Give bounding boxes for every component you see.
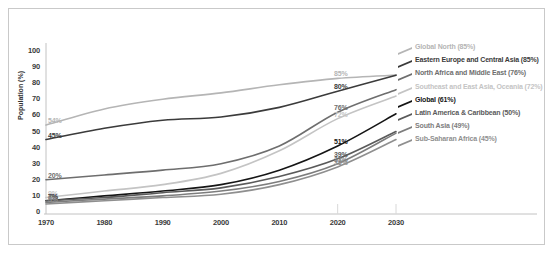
legend-label-7: Sub-Saharan Africa (45%) bbox=[415, 134, 497, 144]
legend-label-3: Southeast and East Asia, Oceania (72%) bbox=[415, 82, 542, 92]
x-axis-tick-2010: 2010 bbox=[259, 218, 299, 227]
legend-item-3: Southeast and East Asia, Oceania (72%) bbox=[398, 82, 542, 92]
legend-label-5: Latin America & Caribbean (50%) bbox=[415, 108, 520, 118]
y-axis-tick-20: 20 bbox=[16, 175, 40, 184]
y-axis-tick-40: 40 bbox=[16, 143, 40, 152]
end-label-4: 51% bbox=[334, 138, 347, 145]
start-label-1: 45% bbox=[48, 132, 61, 139]
legend-swatch-icon-1 bbox=[398, 55, 412, 65]
legend-label-0: Global North (85%) bbox=[415, 42, 475, 52]
end-label-3: 72% bbox=[334, 111, 347, 118]
end-label-7: 33% bbox=[334, 159, 347, 166]
legend-item-1: Eastern Europe and Central Asia (85%) bbox=[398, 55, 539, 65]
legend-swatch-icon-7 bbox=[398, 134, 412, 144]
y-axis-tick-80: 80 bbox=[16, 78, 40, 87]
x-axis-tick-1970: 1970 bbox=[26, 218, 66, 227]
x-axis-tick-1980: 1980 bbox=[84, 218, 124, 227]
legend-label-1: Eastern Europe and Central Asia (85%) bbox=[415, 55, 539, 65]
y-axis-tick-0: 0 bbox=[16, 207, 40, 216]
legend-swatch-icon-4 bbox=[398, 95, 412, 105]
legend-item-2: North Africa and Middle East (76%) bbox=[398, 68, 526, 78]
y-axis-tick-90: 90 bbox=[16, 62, 40, 71]
start-label-7: 5% bbox=[48, 196, 58, 203]
legend-swatch-icon-3 bbox=[398, 82, 412, 92]
legend-item-6: South Asia (49%) bbox=[398, 121, 470, 131]
x-axis-tick-2020: 2020 bbox=[318, 218, 358, 227]
y-axis-tick-60: 60 bbox=[16, 110, 40, 119]
legend-item-5: Latin America & Caribbean (50%) bbox=[398, 108, 520, 118]
end-label-1: 80% bbox=[334, 83, 347, 90]
legend-label-6: South Asia (49%) bbox=[415, 121, 470, 131]
y-axis-tick-10: 10 bbox=[16, 191, 40, 200]
x-axis-tick-1990: 1990 bbox=[143, 218, 183, 227]
x-axis-tick-2000: 2000 bbox=[201, 218, 241, 227]
y-axis-tick-30: 30 bbox=[16, 159, 40, 168]
y-axis-tick-70: 70 bbox=[16, 94, 40, 103]
x-axis-tick-2030: 2030 bbox=[376, 218, 416, 227]
legend-swatch-icon-6 bbox=[398, 121, 412, 131]
chart-figure: Population (%) 0102030405060708090100 19… bbox=[0, 0, 555, 254]
legend-item-4: Global (61%) bbox=[398, 95, 456, 105]
y-axis-tick-100: 100 bbox=[16, 46, 40, 55]
legend-label-2: North Africa and Middle East (76%) bbox=[415, 68, 526, 78]
legend-item-0: Global North (85%) bbox=[398, 42, 475, 52]
start-label-0: 54% bbox=[48, 117, 61, 124]
legend-label-4: Global (61%) bbox=[415, 95, 456, 105]
legend-swatch-icon-0 bbox=[398, 42, 412, 52]
legend-swatch-icon-5 bbox=[398, 108, 412, 118]
y-axis-tick-50: 50 bbox=[16, 127, 40, 136]
legend-swatch-icon-2 bbox=[398, 68, 412, 78]
end-label-0: 85% bbox=[334, 70, 347, 77]
start-label-2: 20% bbox=[48, 172, 61, 179]
legend-item-7: Sub-Saharan Africa (45%) bbox=[398, 134, 497, 144]
